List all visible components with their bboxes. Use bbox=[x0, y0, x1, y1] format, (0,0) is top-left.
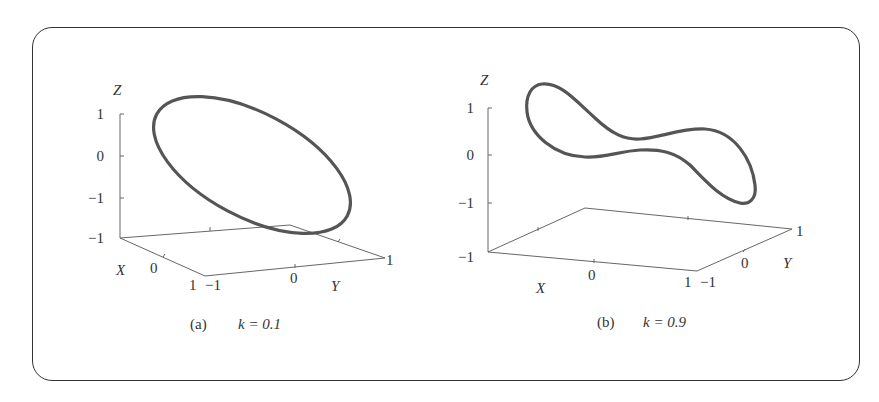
panel-a-z-tick-label: −1 bbox=[88, 190, 104, 206]
panel-b-y-tick-label: 0 bbox=[741, 255, 749, 271]
panel-b-y-tick-label: 1 bbox=[796, 223, 804, 239]
panel-b-curve bbox=[527, 84, 756, 204]
panel-a-y-label: Y bbox=[331, 278, 341, 294]
panel-b-x-tick-label: 1 bbox=[684, 274, 692, 290]
panel-b-caption-param: k = 0.9 bbox=[643, 314, 687, 330]
panel-a-floor bbox=[120, 225, 385, 276]
panel-a-x-tick-label: 0 bbox=[150, 260, 158, 276]
figure-canvas: Z 1 0 −1 −1 X 0 1 −1 0 1 Y (a) k = 0.1 Z… bbox=[0, 0, 879, 402]
panel-b-y-tick-label: −1 bbox=[700, 274, 716, 290]
panel-a-x-tick bbox=[163, 254, 165, 257]
panel-b-y-label: Y bbox=[783, 255, 793, 271]
panel-b-z-tick-label: −1 bbox=[458, 249, 474, 265]
panel-a-z-tick-label: 1 bbox=[97, 106, 105, 122]
panel-a-curve bbox=[132, 68, 372, 261]
panel-b-x-tick-label: 0 bbox=[588, 267, 596, 283]
panel-b: Z 1 0 −1 −1 X 0 1 −1 0 1 Y (b) k = 0.9 bbox=[458, 72, 803, 331]
panel-b-z-tick-label: −1 bbox=[458, 195, 474, 211]
panel-b-z-tick-label: 1 bbox=[467, 100, 475, 116]
panel-a-caption-param: k = 0.1 bbox=[238, 316, 281, 332]
panel-a-y-tick-label: 0 bbox=[290, 270, 298, 286]
panel-b-caption-label: (b) bbox=[597, 314, 615, 331]
panel-b-z-label: Z bbox=[480, 72, 489, 88]
panel-a-y-tick-label: 1 bbox=[386, 252, 394, 268]
panel-b-z-tick-label: 0 bbox=[467, 147, 475, 163]
panel-a-z-tick-label: −1 bbox=[88, 230, 104, 246]
panel-a: Z 1 0 −1 −1 X 0 1 −1 0 1 Y (a) k = 0.1 bbox=[88, 68, 393, 333]
panel-a-z-tick-label: 0 bbox=[97, 148, 105, 164]
panel-a-y-tick-label: −1 bbox=[205, 277, 221, 293]
panel-b-x-label: X bbox=[535, 280, 546, 296]
panel-a-caption-label: (a) bbox=[190, 316, 207, 333]
panel-a-z-label: Z bbox=[113, 82, 122, 98]
panel-a-x-label: X bbox=[115, 262, 126, 278]
panel-a-x-tick-label: 1 bbox=[189, 277, 197, 293]
